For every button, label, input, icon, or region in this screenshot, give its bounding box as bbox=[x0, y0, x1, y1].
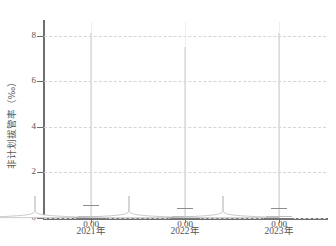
violin-body bbox=[167, 196, 279, 218]
violin-tail bbox=[185, 47, 186, 218]
violin-chart: 非计划拔管率（‰） 02468 0.000.000.00 2021年2022年2… bbox=[0, 0, 336, 246]
x-axis-tick bbox=[91, 218, 92, 223]
box-top-line bbox=[266, 216, 292, 217]
x-axis-tick bbox=[185, 218, 186, 223]
violin-tail bbox=[279, 33, 280, 218]
x-axis-tick bbox=[279, 218, 280, 223]
plot-area: 0.000.000.00 bbox=[44, 22, 326, 218]
x-axis-tick-label: 2023年 bbox=[244, 226, 314, 237]
violin-tail bbox=[91, 33, 92, 218]
x-axis-tick-label: 2022年 bbox=[150, 226, 220, 237]
x-axis-tick-label: 2021年 bbox=[56, 226, 126, 237]
whisker-cap bbox=[271, 208, 287, 209]
violin-plot: 0.00 bbox=[219, 22, 336, 218]
